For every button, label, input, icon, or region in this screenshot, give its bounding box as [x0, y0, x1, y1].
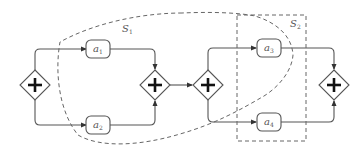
svg-text:1: 1: [99, 48, 103, 55]
svg-text:S: S: [290, 18, 297, 29]
task-a2: a 2: [86, 116, 110, 134]
region-s2-label: S 2: [290, 18, 301, 30]
gateway-g1: [20, 70, 50, 100]
sequence-flows: [35, 48, 334, 125]
svg-text:1: 1: [129, 28, 133, 35]
task-a3: a 3: [257, 39, 281, 57]
gateway-g3: [193, 70, 223, 100]
svg-text:2: 2: [99, 124, 103, 131]
svg-text:3: 3: [270, 47, 274, 54]
flow-g1-a2: [35, 100, 86, 125]
process-diagram: a 1 a 2 a 3 a 4 S 1 S 2: [0, 0, 364, 156]
region-s1-label: S 1: [122, 23, 133, 35]
flow-g3-a3: [208, 48, 256, 70]
task-a1: a 1: [86, 40, 110, 58]
flow-a1-g2: [110, 49, 155, 69]
flow-a3-g4: [281, 48, 334, 69]
svg-text:2: 2: [297, 23, 301, 30]
svg-text:4: 4: [270, 121, 274, 128]
gateway-g4: [319, 70, 349, 100]
flow-a4-g4: [281, 101, 334, 122]
svg-text:S: S: [122, 23, 129, 34]
flow-g3-a4: [208, 100, 256, 122]
task-a4: a 4: [257, 113, 281, 131]
gateway-g2: [140, 70, 170, 100]
flow-g1-a1: [35, 49, 86, 70]
flow-a2-g2: [110, 101, 155, 125]
